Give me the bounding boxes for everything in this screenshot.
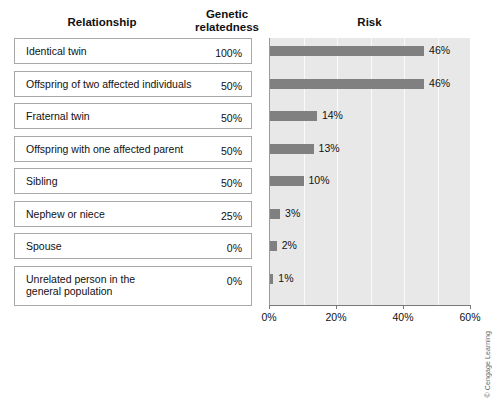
genetic-relatedness-value: 50% bbox=[221, 145, 242, 157]
chart-title-risk: Risk bbox=[269, 16, 470, 29]
x-axis-line bbox=[269, 305, 470, 306]
copyright-credit: © Cengage Learning bbox=[484, 331, 491, 398]
genetic-relatedness-value: 50% bbox=[221, 80, 242, 92]
relationship-table: Identical twin100%Offspring of two affec… bbox=[14, 38, 254, 305]
bar-value-label: 10% bbox=[309, 174, 330, 186]
table-row: Offspring of two affected individuals50% bbox=[14, 71, 252, 97]
bar-value-label: 2% bbox=[282, 239, 297, 251]
relationship-label: Spouse bbox=[26, 240, 62, 253]
table-row: Offspring with one affected parent50% bbox=[14, 136, 252, 162]
genetic-relatedness-value: 50% bbox=[221, 112, 242, 124]
bar bbox=[270, 209, 280, 219]
table-row: Fraternal twin50% bbox=[14, 103, 252, 129]
genetic-relatedness-value: 25% bbox=[221, 210, 242, 222]
bar-value-label: 1% bbox=[278, 272, 293, 284]
axis-tick bbox=[336, 305, 337, 309]
genetic-relatedness-value: 0% bbox=[227, 242, 242, 254]
bar-value-label: 13% bbox=[319, 142, 340, 154]
bar bbox=[270, 46, 424, 56]
table-row: Unrelated person in the general populati… bbox=[14, 266, 252, 306]
genetic-relatedness-value: 50% bbox=[221, 177, 242, 189]
axis-tick bbox=[470, 305, 471, 309]
x-axis: 0%20%40%60% bbox=[269, 305, 470, 329]
genetic-relatedness-value: 100% bbox=[215, 47, 242, 59]
bar-value-label: 46% bbox=[429, 77, 450, 89]
bar bbox=[270, 274, 273, 284]
chart-bars: 46%46%14%13%10%3%2%1% bbox=[270, 38, 470, 305]
bar-value-label: 14% bbox=[322, 109, 343, 121]
bar bbox=[270, 144, 314, 154]
genetic-relatedness-value: 0% bbox=[227, 275, 242, 287]
relationship-label: Fraternal twin bbox=[26, 110, 90, 123]
bar bbox=[270, 79, 424, 89]
relationship-label: Nephew or niece bbox=[26, 207, 105, 220]
bar-value-label: 3% bbox=[285, 207, 300, 219]
relationship-label: Identical twin bbox=[26, 45, 87, 58]
table-row: Sibling50% bbox=[14, 168, 252, 194]
axis-tick-label: 0% bbox=[249, 311, 289, 323]
axis-tick bbox=[269, 305, 270, 309]
axis-tick-label: 60% bbox=[450, 311, 490, 323]
bar bbox=[270, 111, 317, 121]
column-header-genetic-relatedness: Genetic relatedness bbox=[188, 8, 266, 34]
column-header-relationship: Relationship bbox=[22, 16, 182, 29]
relationship-label: Unrelated person in the general populati… bbox=[26, 273, 135, 298]
bar bbox=[270, 176, 304, 186]
risk-bar-chart-plot-area: 46%46%14%13%10%3%2%1% bbox=[269, 38, 470, 305]
relationship-label: Sibling bbox=[26, 175, 58, 188]
axis-tick-label: 40% bbox=[383, 311, 423, 323]
table-row: Identical twin100% bbox=[14, 38, 252, 64]
bar bbox=[270, 241, 277, 251]
bar-value-label: 46% bbox=[429, 44, 450, 56]
table-row: Nephew or niece25% bbox=[14, 201, 252, 227]
table-row: Spouse0% bbox=[14, 233, 252, 259]
relationship-label: Offspring with one affected parent bbox=[26, 142, 183, 155]
axis-tick-label: 20% bbox=[316, 311, 356, 323]
relationship-label: Offspring of two affected individuals bbox=[26, 77, 191, 90]
axis-tick bbox=[403, 305, 404, 309]
